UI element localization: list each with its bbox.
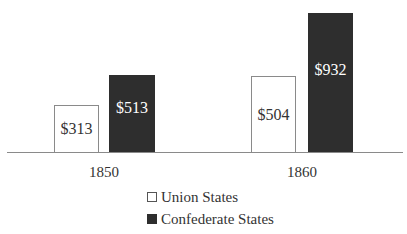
bar-label: $313 (61, 121, 93, 137)
bar-confederate-1860: $932 (308, 13, 353, 152)
x-tick-1860: 1860 (262, 164, 342, 181)
bar-confederate-1850: $513 (109, 75, 155, 152)
legend-swatch-confederate-icon (147, 214, 157, 224)
x-tick-1850: 1850 (64, 164, 144, 181)
legend-item-union: Union States (147, 186, 274, 208)
legend-label-confederate: Confederate States (161, 211, 274, 228)
legend-item-confederate: Confederate States (147, 208, 274, 230)
legend-swatch-union-icon (147, 192, 157, 202)
x-axis-line (7, 152, 403, 153)
legend-label-union: Union States (161, 189, 238, 206)
bar-union-1860: $504 (251, 76, 296, 152)
bar-label: $513 (116, 100, 148, 116)
legend: Union States Confederate States (147, 186, 274, 230)
bar-union-1850: $313 (54, 105, 99, 152)
bar-label: $504 (258, 107, 290, 123)
bar-label: $932 (315, 62, 347, 78)
